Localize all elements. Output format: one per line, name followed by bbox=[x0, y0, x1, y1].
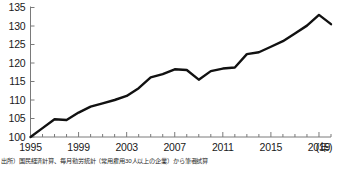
y-axis-tick-label: 135 bbox=[0, 2, 26, 13]
x-axis-tick-label: 2011 bbox=[203, 142, 243, 153]
y-axis-tick-label: 120 bbox=[0, 58, 26, 69]
y-axis-tick-label: 130 bbox=[0, 21, 26, 32]
source-note: 出所）国民経済計算、毎月勤労統計（常用雇用30人以上の企業）から筆者試算 bbox=[1, 158, 208, 165]
y-axis-tick-label: 110 bbox=[0, 95, 26, 106]
x-axis-tick-label: 1995 bbox=[11, 142, 51, 153]
x-axis-tick-label: 2003 bbox=[107, 142, 147, 153]
y-axis-tick-label: 125 bbox=[0, 39, 26, 50]
x-axis-tick-label: 2015 bbox=[251, 142, 291, 153]
x-axis-tick-label: 1999 bbox=[59, 142, 99, 153]
chart-figure: 100105110115120125130135 199519992003200… bbox=[0, 0, 337, 169]
x-axis-tick-label: 2007 bbox=[155, 142, 195, 153]
x-axis-unit-label: (年) bbox=[312, 142, 336, 153]
y-axis-tick-label: 105 bbox=[0, 113, 26, 124]
data-series-line bbox=[31, 15, 332, 137]
y-axis-tick-label: 115 bbox=[0, 76, 26, 87]
